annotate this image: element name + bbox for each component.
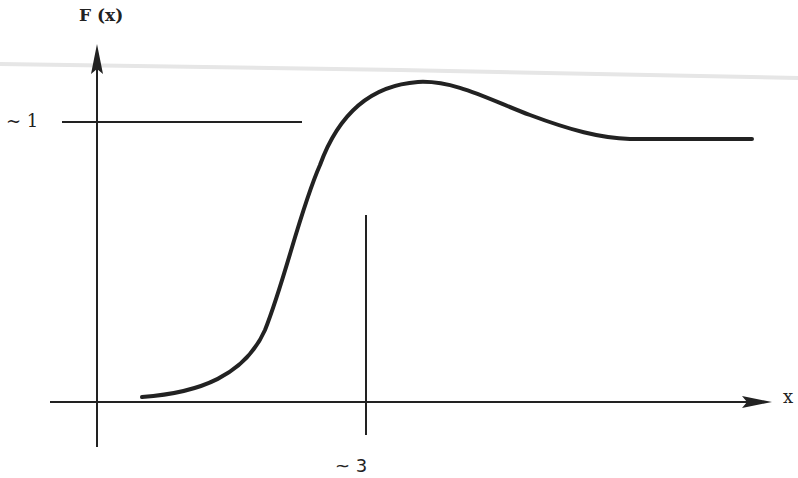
x-marker-label: ~ 3 <box>335 455 367 476</box>
scan-artifact-line <box>0 64 798 78</box>
diagram-canvas <box>0 0 798 478</box>
x-axis-label: x <box>783 386 793 407</box>
y-axis-label: F (x) <box>79 5 123 25</box>
y-marker-label: ~ 1 <box>6 110 38 131</box>
function-curve <box>142 82 752 397</box>
